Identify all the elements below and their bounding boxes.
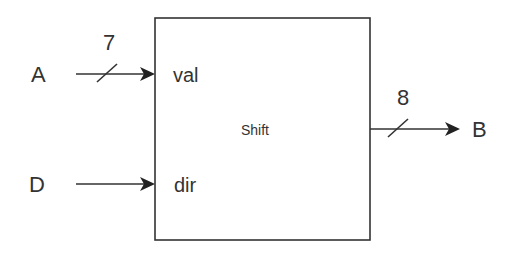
output-b-width: 8 xyxy=(397,85,409,110)
input-a-width: 7 xyxy=(103,30,115,55)
shift-block-diagram: Shift A 7 val D dir 8 B xyxy=(0,0,513,253)
input-signal-a: A xyxy=(31,62,46,87)
port-dir: dir xyxy=(174,174,197,196)
output-signal-b: B xyxy=(472,117,487,142)
bus-width-slash-icon xyxy=(388,119,408,137)
bus-width-slash-icon xyxy=(97,64,117,82)
block-label: Shift xyxy=(241,122,269,138)
port-val: val xyxy=(173,64,199,86)
input-signal-d: D xyxy=(29,172,45,197)
